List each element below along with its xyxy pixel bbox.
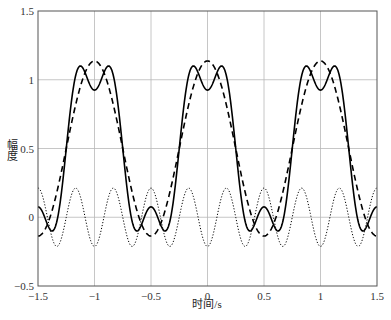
- x-tick-label: 0.5: [257, 290, 271, 302]
- x-axis-label: 时间/s: [192, 298, 221, 310]
- y-tick-label: 1: [29, 74, 35, 86]
- chart: −1.5−1−0.500.511.5 −0.500.511.5 时间/s 幅度: [0, 0, 391, 320]
- y-tick-label: −0.5: [14, 280, 34, 292]
- x-tick-label: −1: [89, 290, 101, 302]
- y-tick-label: 0.5: [20, 143, 34, 155]
- grid-lines: [38, 11, 377, 286]
- y-tick-label: 0: [29, 211, 35, 223]
- x-tick-label: 1: [318, 290, 324, 302]
- x-tick-label: 1.5: [370, 290, 384, 302]
- y-axis-label: 幅度: [6, 139, 19, 162]
- y-tick-label: 1.5: [20, 5, 34, 17]
- x-tick-label: −0.5: [141, 290, 161, 302]
